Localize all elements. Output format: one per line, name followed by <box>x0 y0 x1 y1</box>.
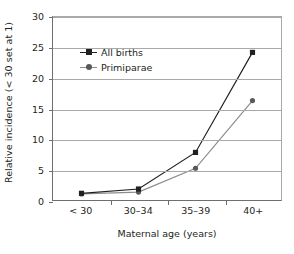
data-point-marker <box>250 98 255 103</box>
y-axis-tick-labels: 051015202530 <box>18 0 48 210</box>
legend-label: Primiparae <box>101 62 152 73</box>
x-tick-label: < 30 <box>69 205 92 216</box>
y-tick-label: 25 <box>32 41 44 52</box>
data-point-marker <box>250 50 255 55</box>
data-point-marker <box>136 186 141 191</box>
y-tick-mark <box>49 140 53 141</box>
gridline <box>53 17 281 18</box>
chart-legend: All births Primiparae <box>80 46 152 73</box>
x-axis-title: Maternal age (years) <box>52 228 282 239</box>
y-axis-title-text: Relative incidence (< 30 set at 1) <box>4 22 15 183</box>
y-tick-mark <box>49 110 53 111</box>
gridline <box>53 140 281 141</box>
y-tick-label: 30 <box>32 11 44 22</box>
y-tick-label: 0 <box>38 196 44 207</box>
gridline <box>53 79 281 80</box>
data-point-marker <box>79 191 84 196</box>
y-tick-label: 5 <box>38 165 44 176</box>
legend-item-all-births: All births <box>80 46 152 58</box>
legend-item-primiparae: Primiparae <box>80 61 152 73</box>
y-tick-mark <box>49 48 53 49</box>
x-tick-label: 35–39 <box>181 205 210 216</box>
x-tick-label: 30–34 <box>124 205 153 216</box>
x-tick-label: 40+ <box>243 205 263 216</box>
gridline <box>53 171 281 172</box>
y-tick-label: 20 <box>32 72 44 83</box>
x-axis-title-text: Maternal age (years) <box>117 228 216 239</box>
legend-marker-square-icon <box>80 47 97 57</box>
y-axis-title: Relative incidence (< 30 set at 1) <box>0 0 18 205</box>
plot-area <box>52 16 282 201</box>
legend-marker-circle-icon <box>80 62 97 72</box>
series-lines-layer <box>53 17 281 200</box>
data-point-marker <box>193 166 198 171</box>
y-tick-mark <box>49 17 53 18</box>
y-tick-mark <box>49 171 53 172</box>
y-tick-label: 10 <box>32 134 44 145</box>
y-tick-mark <box>49 202 53 203</box>
y-tick-label: 15 <box>32 103 44 114</box>
gridline <box>53 110 281 111</box>
chart-figure: Relative incidence (< 30 set at 1) 05101… <box>0 0 294 254</box>
data-point-marker <box>193 150 198 155</box>
x-axis-tick-labels: < 3030–3435–3940+ <box>52 205 282 223</box>
legend-label: All births <box>101 47 143 58</box>
series-line <box>82 101 253 194</box>
y-tick-mark <box>49 79 53 80</box>
